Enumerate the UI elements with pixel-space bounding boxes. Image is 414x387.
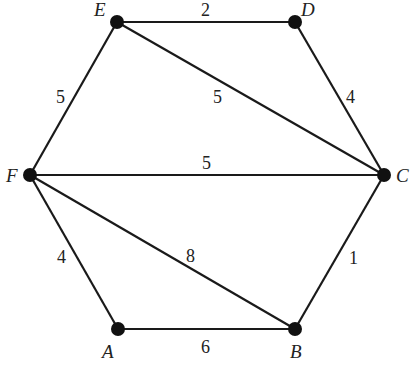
node-label-f: F [5,165,18,186]
edge-weight-f-a: 4 [57,247,66,267]
node-c [377,168,391,182]
node-d [288,15,302,29]
edge-e-c [117,22,384,175]
edge-weight-a-b: 6 [201,337,210,357]
edge-d-c [295,22,384,175]
edge-weight-d-c: 4 [346,87,355,107]
edge-f-a [30,175,118,329]
node-f [23,168,37,182]
node-label-d: D [300,0,315,20]
node-labels-group: ABCDEF [5,0,409,362]
edges-group [30,22,384,329]
node-label-b: B [290,341,302,362]
edge-b-c [295,175,384,329]
edge-weight-f-b: 8 [186,246,195,266]
edge-weight-b-c: 1 [349,248,358,268]
edge-weight-e-c: 5 [213,87,222,107]
edge-f-b [30,175,295,329]
node-a [111,322,125,336]
node-b [288,322,302,336]
node-label-c: C [396,165,409,186]
graph-diagram: 245554861 ABCDEF [0,0,414,387]
edge-e-f [30,22,117,175]
node-label-e: E [93,0,106,20]
node-e [110,15,124,29]
node-label-a: A [100,341,114,362]
edge-weight-e-d: 2 [201,0,210,20]
edge-weight-e-f: 5 [56,87,65,107]
edge-weight-f-c: 5 [202,153,211,173]
